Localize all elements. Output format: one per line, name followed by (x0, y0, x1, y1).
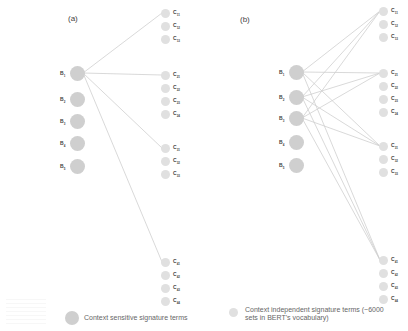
c-node-b-43 (379, 282, 388, 291)
c-node-b-24 (379, 108, 388, 117)
b-node-label: B2 (279, 94, 284, 102)
b-node-label: B4 (60, 140, 65, 148)
edge-b-B2-C21 (302, 73, 380, 97)
legend-context-independent-line1: Context independent signature terms (~60… (245, 306, 384, 314)
c-node-b-21 (379, 69, 388, 78)
b-node-a-2 (70, 92, 85, 107)
c-node-a-11 (161, 9, 170, 18)
c-node-label: C11 (391, 7, 398, 15)
c-node-a-23 (161, 97, 170, 106)
c-node-label: C41 (391, 256, 398, 264)
b-node-label: B4 (279, 139, 284, 147)
c-node-b-41 (379, 256, 388, 265)
c-node-a-42 (161, 271, 170, 280)
b-node-label: B5 (60, 163, 65, 171)
edge-a-B1-C31 (83, 73, 162, 148)
c-node-b-33 (379, 168, 388, 177)
c-node-label: C12 (391, 20, 398, 28)
b-node-a-5 (70, 159, 85, 174)
c-node-a-44 (161, 297, 170, 306)
b-node-a-1 (70, 66, 85, 81)
edge-a-B1-C21 (83, 73, 162, 75)
c-node-label: C21 (173, 71, 180, 79)
c-node-label: C44 (173, 297, 180, 305)
c-node-label: C21 (391, 69, 398, 77)
c-node-label: C24 (391, 108, 398, 116)
c-node-b-31 (379, 142, 388, 151)
edge-b-B3-C31 (302, 118, 380, 146)
context-independent-node-icon (229, 308, 238, 317)
edge-b-B1-C11 (302, 11, 380, 72)
c-node-b-32 (379, 155, 388, 164)
edge-b-B3-C21 (302, 73, 380, 118)
b-node-a-3 (70, 114, 85, 129)
b-node-b-1 (289, 65, 304, 80)
edge-b-B3-C11 (302, 11, 380, 118)
legend-context-independent-line2: sets in BERT's vocabulary) (245, 314, 384, 322)
c-node-label: C23 (173, 97, 180, 105)
edge-b-B2-C11 (302, 11, 380, 97)
c-node-a-22 (161, 84, 170, 93)
c-node-label: C23 (391, 95, 398, 103)
b-node-label: B3 (60, 118, 65, 126)
c-node-a-21 (161, 71, 170, 80)
c-node-b-11 (379, 7, 388, 16)
c-node-label: C43 (391, 282, 398, 290)
c-node-a-12 (161, 22, 170, 31)
c-node-b-44 (379, 295, 388, 304)
edge-b-B1-C41 (302, 72, 380, 260)
c-node-label: C22 (173, 84, 180, 92)
c-node-b-12 (379, 20, 388, 29)
edge-a-B1-C41 (83, 73, 162, 262)
edge-b-B3-C41 (302, 118, 380, 260)
legend-context-independent: Context independent signature terms (~60… (229, 306, 384, 322)
c-node-b-22 (379, 82, 388, 91)
c-node-label: C44 (391, 295, 398, 303)
c-node-a-41 (161, 258, 170, 267)
c-node-label: C13 (391, 33, 398, 41)
c-node-label: C41 (173, 258, 180, 266)
b-node-b-4 (289, 135, 304, 150)
edge-b-B1-C21 (302, 72, 380, 73)
b-node-b-5 (289, 158, 304, 173)
c-node-b-13 (379, 33, 388, 42)
c-node-b-23 (379, 95, 388, 104)
c-node-label: C11 (173, 9, 180, 17)
watermark-artifact (6, 296, 46, 324)
legend-context-independent-label: Context independent signature terms (~60… (245, 306, 384, 322)
panel-b-label: (b) (240, 15, 250, 24)
legend-context-sensitive: Context sensitive signature terms (65, 311, 188, 325)
context-sensitive-node-icon (65, 311, 79, 325)
edge-a-B1-C11 (83, 13, 162, 73)
c-node-label: C42 (173, 271, 180, 279)
b-node-b-3 (289, 111, 304, 126)
c-node-a-24 (161, 110, 170, 119)
c-node-b-42 (379, 269, 388, 278)
c-node-label: C12 (173, 22, 180, 30)
c-node-a-32 (161, 157, 170, 166)
b-node-label: B1 (279, 69, 284, 77)
c-node-label: C13 (173, 35, 180, 43)
b-node-label: B1 (60, 70, 65, 78)
c-node-label: C42 (391, 269, 398, 277)
c-node-label: C32 (173, 157, 180, 165)
c-node-a-13 (161, 35, 170, 44)
c-node-label: C24 (173, 110, 180, 118)
c-node-a-33 (161, 170, 170, 179)
c-node-a-43 (161, 284, 170, 293)
c-node-label: C33 (391, 168, 398, 176)
c-node-label: C33 (173, 170, 180, 178)
b-node-label: B3 (279, 115, 284, 123)
edge-b-B1-C31 (302, 72, 380, 146)
c-node-label: C32 (391, 155, 398, 163)
b-node-a-4 (70, 136, 85, 151)
panel-a-label: (a) (68, 14, 78, 23)
c-node-a-31 (161, 144, 170, 153)
c-node-label: C31 (173, 144, 180, 152)
legend-context-sensitive-label: Context sensitive signature terms (84, 314, 188, 322)
b-node-b-2 (289, 90, 304, 105)
c-node-label: C43 (173, 284, 180, 292)
b-node-label: B2 (60, 96, 65, 104)
b-node-label: B5 (279, 162, 284, 170)
c-node-label: C22 (391, 82, 398, 90)
